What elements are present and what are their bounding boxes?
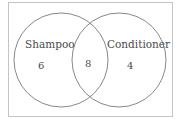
intersection-count: 8 [85,58,91,69]
conditioner-label: Conditioner [107,38,171,50]
shampoo-only-count: 6 [38,60,44,71]
conditioner-only-count: 4 [127,60,133,71]
venn-diagram: Shampoo Conditioner 6 8 4 [0,0,176,119]
shampoo-label: Shampoo [25,38,75,50]
